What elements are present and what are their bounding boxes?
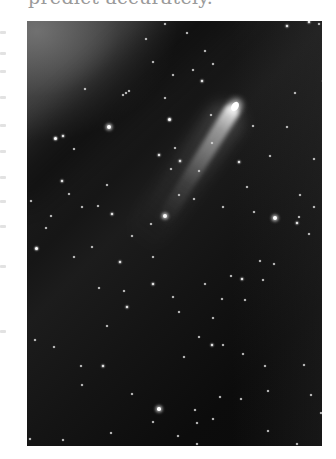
star xyxy=(110,432,112,434)
star xyxy=(178,311,180,313)
star xyxy=(54,137,57,140)
star xyxy=(192,69,194,71)
star xyxy=(273,216,277,220)
star xyxy=(264,365,266,367)
star xyxy=(211,344,214,347)
star xyxy=(81,206,83,208)
star xyxy=(98,287,100,289)
star xyxy=(177,435,179,437)
star xyxy=(158,154,161,157)
margin-text-fragment xyxy=(0,96,6,99)
star xyxy=(196,443,198,445)
star xyxy=(73,256,75,258)
star xyxy=(183,356,185,358)
star xyxy=(168,118,171,121)
star xyxy=(299,194,301,196)
margin-text-fragment xyxy=(0,52,6,55)
star xyxy=(201,80,204,83)
margin-text-fragment xyxy=(0,225,6,228)
star xyxy=(106,325,108,327)
star xyxy=(122,94,124,96)
star xyxy=(157,407,160,410)
star xyxy=(61,180,64,183)
star xyxy=(126,306,129,309)
star xyxy=(240,398,242,400)
star xyxy=(222,344,224,346)
margin-text-fragment xyxy=(0,70,6,73)
star xyxy=(310,394,312,396)
star xyxy=(131,393,133,395)
star xyxy=(259,260,261,262)
star xyxy=(194,409,196,411)
margin-text-fragment xyxy=(0,150,6,153)
star xyxy=(34,339,36,341)
star xyxy=(35,247,38,250)
star xyxy=(294,92,296,94)
star xyxy=(262,279,264,281)
star xyxy=(152,256,154,258)
margin-text-fragment xyxy=(0,200,6,203)
margin-text-fragment xyxy=(0,176,6,179)
star xyxy=(212,63,214,65)
star xyxy=(152,283,155,286)
margin-text-fragment xyxy=(0,265,6,268)
star xyxy=(53,346,55,348)
star xyxy=(253,211,255,213)
star xyxy=(45,227,47,229)
star xyxy=(106,184,108,186)
star xyxy=(219,396,221,398)
comet-tail xyxy=(154,102,242,229)
star xyxy=(102,365,105,368)
star xyxy=(128,90,130,92)
star xyxy=(50,215,52,217)
star xyxy=(91,246,93,248)
star xyxy=(68,193,70,195)
star xyxy=(204,50,206,52)
star xyxy=(318,23,320,25)
star xyxy=(198,336,200,338)
star xyxy=(196,422,198,424)
margin-text-fragment xyxy=(0,330,6,333)
star xyxy=(273,263,275,265)
star xyxy=(145,38,147,40)
margin-text-fragment xyxy=(0,124,6,127)
star xyxy=(80,365,82,367)
star xyxy=(174,147,176,149)
star xyxy=(123,290,125,292)
star xyxy=(29,438,31,440)
star xyxy=(286,126,288,128)
star xyxy=(152,421,154,423)
star xyxy=(204,283,206,285)
star xyxy=(164,97,166,99)
star xyxy=(212,317,214,319)
star xyxy=(81,384,83,386)
star xyxy=(152,61,154,63)
star xyxy=(84,88,86,90)
star xyxy=(246,186,248,188)
star xyxy=(125,92,127,94)
star xyxy=(221,298,223,300)
star xyxy=(222,206,224,208)
star xyxy=(111,213,114,216)
star xyxy=(212,418,214,420)
star xyxy=(244,299,246,301)
star xyxy=(97,205,99,207)
star xyxy=(320,412,322,414)
comet-photo xyxy=(27,21,322,446)
star xyxy=(172,296,174,298)
star xyxy=(298,216,300,218)
star xyxy=(62,439,64,441)
body-text-line: predict accurately. xyxy=(28,0,213,7)
star xyxy=(119,261,122,264)
margin-text-fragment xyxy=(0,31,6,34)
